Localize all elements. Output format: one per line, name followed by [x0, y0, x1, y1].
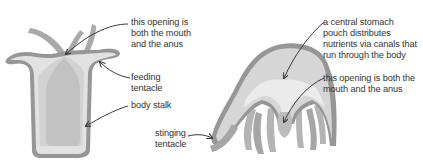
arrow-hydra-feeding [100, 62, 130, 78]
label-jelly-mouth-anus: this opening is both the mouth and the a… [323, 73, 415, 95]
label-hydra-mouth-anus: this opening is both the mouth and the a… [131, 17, 191, 50]
arrow-hydra-stalk [86, 106, 128, 126]
label-hydra-feeding-tentacle: feeding tentacle [131, 72, 162, 94]
hydra-illustration [5, 24, 120, 158]
arrow-jelly-stinging [188, 135, 212, 138]
jellyfish-illustration [210, 43, 337, 154]
hydra-tentacle-left [28, 28, 66, 56]
label-jelly-stomach: a central stomach pouch distributes nutr… [323, 17, 417, 61]
label-hydra-body-stalk: body stalk [131, 100, 171, 111]
label-jelly-stinging-tentacle: stinging tentacle [155, 128, 186, 150]
jellyfish-mouth [277, 112, 292, 138]
